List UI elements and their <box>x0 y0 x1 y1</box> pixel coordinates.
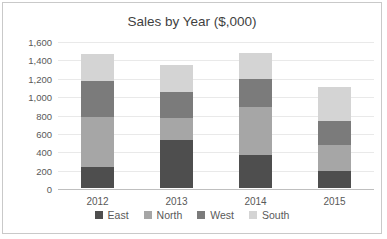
legend-swatch-west <box>197 211 205 219</box>
bar-segment-west-2013 <box>160 92 193 118</box>
bar-segment-north-2012 <box>81 117 114 167</box>
bar-segment-west-2012 <box>81 81 114 118</box>
chart-title: Sales by Year ($,000) <box>3 14 381 29</box>
x-axis-label-2014: 2014 <box>226 196 286 207</box>
plot-area: 02004006008001,0001,2001,4001,6002012201… <box>58 42 374 189</box>
bar-segment-south-2015 <box>318 87 351 121</box>
x-axis-line: 0 <box>58 189 374 190</box>
bar-segment-east-2013 <box>160 140 193 188</box>
bar-segment-north-2015 <box>318 145 351 171</box>
bar-segment-south-2013 <box>160 65 193 93</box>
legend: EastNorthWestSouth <box>3 209 381 221</box>
legend-label-west: West <box>210 209 234 221</box>
y-axis-tick-label: 200 <box>8 165 52 176</box>
bar-segment-south-2014 <box>239 53 272 78</box>
bar-segment-west-2015 <box>318 121 351 145</box>
bar-segment-east-2012 <box>81 167 114 188</box>
legend-swatch-east <box>95 211 103 219</box>
legend-swatch-south <box>249 211 257 219</box>
gridline: 1,600 <box>58 42 374 43</box>
x-axis-label-2013: 2013 <box>147 196 207 207</box>
bar-segment-east-2015 <box>318 171 351 188</box>
bar-segment-west-2014 <box>239 79 272 107</box>
y-axis-tick-label: 800 <box>8 110 52 121</box>
y-axis-tick-label: 1,000 <box>8 92 52 103</box>
legend-swatch-north <box>144 211 152 219</box>
chart-frame: Sales by Year ($,000) 02004006008001,000… <box>2 2 382 234</box>
legend-item-west: West <box>197 209 234 221</box>
y-axis-tick-label: 1,600 <box>8 37 52 48</box>
legend-item-east: East <box>95 209 129 221</box>
y-axis-tick-label: 600 <box>8 128 52 139</box>
y-axis-tick-label: 1,200 <box>8 73 52 84</box>
legend-label-north: North <box>157 209 183 221</box>
y-axis-tick-label: 0 <box>8 184 52 195</box>
legend-item-north: North <box>144 209 183 221</box>
bar-segment-south-2012 <box>81 54 114 81</box>
legend-item-south: South <box>249 209 289 221</box>
y-axis-tick-label: 400 <box>8 147 52 158</box>
x-axis-label-2012: 2012 <box>68 196 128 207</box>
bar-segment-north-2013 <box>160 118 193 140</box>
x-axis-label-2015: 2015 <box>305 196 365 207</box>
y-axis-tick-label: 1,400 <box>8 55 52 66</box>
legend-label-south: South <box>262 209 289 221</box>
bar-segment-east-2014 <box>239 155 272 188</box>
bar-segment-north-2014 <box>239 107 272 155</box>
legend-label-east: East <box>108 209 129 221</box>
